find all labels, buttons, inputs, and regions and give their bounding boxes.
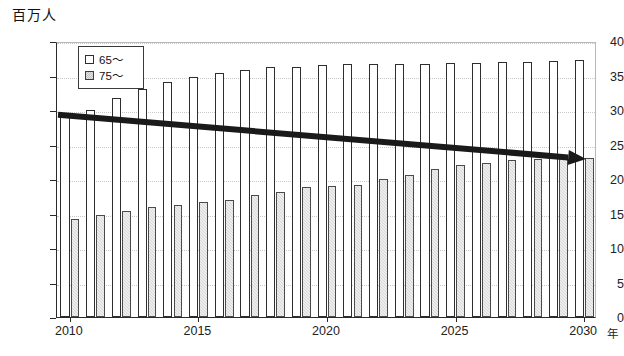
x-axis-tick-label: 2025 xyxy=(441,324,469,338)
bar-75-plus xyxy=(328,186,337,317)
x-axis-tick-mark xyxy=(70,317,71,322)
x-axis-tick-label: 2010 xyxy=(55,324,83,338)
bar-65-plus xyxy=(549,61,558,317)
bar-75-plus xyxy=(276,192,285,317)
bar-group xyxy=(186,43,212,317)
legend-item-label: 65～ xyxy=(99,51,123,67)
bar-65-plus xyxy=(472,63,481,317)
population-projection-chart: 百万人 0510152025303540 2010201520202025203… xyxy=(0,0,624,356)
x-axis-tick-label: 2030 xyxy=(569,324,597,338)
bar-75-plus xyxy=(122,211,131,317)
bar-65-plus xyxy=(523,62,532,317)
bar-group xyxy=(520,43,546,317)
bar-group xyxy=(288,43,314,317)
bar-group xyxy=(263,43,289,317)
bar-75-plus xyxy=(456,165,465,317)
bar-group xyxy=(417,43,443,317)
bar-65-plus xyxy=(575,60,584,317)
y-axis-unit-label: 百万人 xyxy=(12,4,57,24)
bar-75-plus xyxy=(302,187,311,317)
x-axis-tick-mark xyxy=(456,317,457,322)
x-axis-tick-label: 2015 xyxy=(184,324,212,338)
bar-group xyxy=(546,43,572,317)
bar-65-plus xyxy=(138,89,147,317)
bar-group xyxy=(237,43,263,317)
bar-75-plus xyxy=(405,175,414,317)
bar-65-plus xyxy=(86,110,95,317)
bar-75-plus xyxy=(199,202,208,317)
bar-75-plus xyxy=(148,207,157,317)
bar-65-plus xyxy=(163,82,172,317)
x-axis-tick-mark xyxy=(198,317,199,322)
bar-65-plus xyxy=(343,64,352,317)
bar-group xyxy=(314,43,340,317)
bar-75-plus xyxy=(431,169,440,317)
x-axis-tick-label: 2020 xyxy=(312,324,340,338)
bar-65-plus xyxy=(112,98,121,317)
bar-65-plus xyxy=(318,65,327,317)
bar-75-plus xyxy=(482,163,491,317)
legend-item: 75～ xyxy=(85,67,138,83)
bar-65-plus xyxy=(292,67,301,317)
bar-75-plus xyxy=(251,195,260,317)
bar-65-plus xyxy=(446,63,455,317)
bar-group xyxy=(443,43,469,317)
bar-75-plus xyxy=(559,158,568,317)
bar-65-plus xyxy=(60,113,69,317)
y-axis-tick-mark xyxy=(50,318,56,319)
bar-65-plus xyxy=(395,64,404,317)
bar-65-plus xyxy=(498,62,507,317)
bar-group xyxy=(211,43,237,317)
bar-65-plus xyxy=(369,64,378,317)
x-axis-unit-label: 年 xyxy=(607,325,618,341)
bar-75-plus xyxy=(96,215,105,317)
chart-legend: 65～75～ xyxy=(78,46,144,89)
bar-75-plus xyxy=(354,185,363,317)
bar-group xyxy=(391,43,417,317)
legend-item-label: 75～ xyxy=(99,67,123,83)
bar-65-plus xyxy=(240,70,249,317)
x-axis-tick-mark xyxy=(584,317,585,322)
bar-75-plus xyxy=(585,158,594,317)
open-square-icon xyxy=(85,55,94,64)
bar-75-plus xyxy=(508,160,517,317)
hatched-square-icon xyxy=(85,71,94,80)
bar-65-plus xyxy=(189,77,198,317)
legend-item: 65～ xyxy=(85,51,138,67)
bar-group xyxy=(340,43,366,317)
bar-group xyxy=(160,43,186,317)
bar-75-plus xyxy=(379,179,388,317)
bar-65-plus xyxy=(215,73,224,317)
bar-group xyxy=(494,43,520,317)
x-axis-tick-mark xyxy=(327,317,328,322)
bar-65-plus xyxy=(420,64,429,317)
bar-75-plus xyxy=(71,219,80,317)
bar-75-plus xyxy=(225,200,234,317)
bar-group xyxy=(571,43,597,317)
bar-75-plus xyxy=(174,205,183,317)
bar-group xyxy=(468,43,494,317)
bar-75-plus xyxy=(534,159,543,317)
bar-65-plus xyxy=(266,67,275,317)
bar-group xyxy=(366,43,392,317)
